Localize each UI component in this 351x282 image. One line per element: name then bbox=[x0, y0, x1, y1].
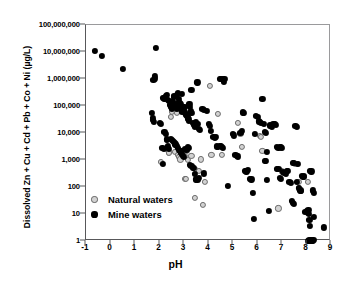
x-tick-mark bbox=[232, 240, 233, 245]
data-point-mine-water bbox=[186, 145, 192, 151]
data-point-mine-water bbox=[120, 66, 126, 72]
y-tick-label: 1,000,000 bbox=[47, 74, 80, 83]
data-point-mine-water bbox=[294, 124, 300, 130]
data-point-natural-water bbox=[207, 83, 213, 89]
data-point-natural-water bbox=[202, 179, 208, 185]
data-point-mine-water bbox=[291, 201, 297, 207]
data-point-mine-water bbox=[235, 153, 241, 159]
data-point-natural-water bbox=[305, 179, 311, 185]
x-axis-title: pH bbox=[0, 258, 351, 270]
data-point-mine-water bbox=[250, 190, 256, 196]
natural-waters-marker-icon bbox=[88, 196, 101, 202]
data-point-natural-water bbox=[200, 202, 206, 208]
data-point-natural-water bbox=[215, 111, 221, 117]
data-point-mine-water bbox=[220, 144, 226, 150]
x-tick-mark bbox=[256, 240, 257, 245]
data-point-mine-water bbox=[321, 224, 327, 230]
data-point-mine-water bbox=[263, 130, 269, 136]
y-tick-label: 1,000 bbox=[61, 155, 80, 164]
data-point-natural-water bbox=[238, 144, 244, 150]
legend-item-mine-waters: Mine waters bbox=[88, 207, 173, 222]
data-point-mine-water bbox=[150, 77, 156, 83]
y-tick-label: 10,000 bbox=[57, 128, 80, 137]
x-tick-mark bbox=[281, 240, 282, 245]
data-point-mine-water bbox=[264, 177, 270, 183]
data-point-mine-water bbox=[204, 108, 210, 114]
data-point-mine-water bbox=[273, 122, 279, 128]
data-point-mine-water bbox=[178, 91, 184, 97]
data-point-natural-water bbox=[235, 120, 241, 126]
data-point-natural-water bbox=[198, 156, 204, 162]
data-point-mine-water bbox=[263, 158, 269, 164]
mine-waters-marker-icon bbox=[88, 211, 101, 217]
data-point-mine-water bbox=[197, 127, 203, 133]
y-tick-label: 100,000 bbox=[53, 101, 80, 110]
data-point-mine-water bbox=[188, 110, 194, 116]
legend-label-natural-waters: Natural waters bbox=[108, 194, 173, 205]
x-tick-mark bbox=[183, 240, 184, 245]
y-tick-label: 100 bbox=[68, 182, 80, 191]
data-point-mine-water bbox=[188, 87, 194, 93]
data-point-mine-water bbox=[194, 79, 200, 85]
legend-label-mine-waters: Mine waters bbox=[108, 209, 162, 220]
data-point-mine-water bbox=[153, 45, 159, 51]
data-point-mine-water bbox=[225, 183, 231, 189]
data-point-natural-water bbox=[275, 205, 281, 211]
data-point-mine-water bbox=[158, 121, 164, 127]
chart-legend: Natural waters Mine waters bbox=[88, 192, 173, 222]
x-tick-mark bbox=[330, 240, 331, 245]
data-point-mine-water bbox=[298, 188, 304, 194]
y-tick-label: 10,000,000 bbox=[43, 47, 80, 56]
data-point-mine-water bbox=[311, 214, 317, 220]
data-point-mine-water bbox=[91, 48, 97, 54]
data-point-mine-water bbox=[278, 176, 284, 182]
x-tick-mark bbox=[85, 240, 86, 245]
data-point-mine-water bbox=[238, 128, 244, 134]
data-point-mine-water bbox=[264, 149, 270, 155]
x-tick-mark bbox=[158, 240, 159, 245]
x-tick-mark bbox=[109, 240, 110, 245]
data-point-mine-water bbox=[265, 208, 271, 214]
data-point-mine-water bbox=[99, 53, 105, 59]
data-point-mine-water bbox=[245, 167, 251, 173]
data-point-mine-water bbox=[279, 145, 285, 151]
data-point-mine-water bbox=[213, 133, 219, 139]
data-point-natural-water bbox=[192, 195, 198, 201]
legend-item-natural-waters: Natural waters bbox=[88, 192, 173, 207]
y-tick-label: 100,000,000 bbox=[39, 20, 80, 29]
data-point-mine-water bbox=[248, 176, 254, 182]
data-point-mine-water bbox=[285, 168, 291, 174]
data-point-mine-water bbox=[201, 170, 207, 176]
data-point-natural-water bbox=[208, 152, 214, 158]
data-point-natural-water bbox=[188, 153, 194, 159]
x-tick-mark bbox=[134, 240, 135, 245]
data-point-mine-water bbox=[241, 110, 247, 116]
data-point-mine-water bbox=[251, 216, 257, 222]
data-point-mine-water bbox=[160, 161, 166, 167]
data-point-natural-water bbox=[183, 176, 189, 182]
y-axis-title: Dissolved Zn + Cu + Cd + Pb + Co + Ni (µ… bbox=[22, 12, 32, 262]
data-point-mine-water bbox=[259, 96, 265, 102]
x-tick-mark bbox=[305, 240, 306, 245]
data-point-mine-water bbox=[307, 223, 313, 229]
data-point-natural-water bbox=[219, 152, 225, 158]
y-tick-label: 10 bbox=[72, 209, 80, 218]
x-tick-mark bbox=[207, 240, 208, 245]
scatter-chart-figure: Dissolved Zn + Cu + Cd + Pb + Co + Ni (µ… bbox=[0, 0, 351, 282]
